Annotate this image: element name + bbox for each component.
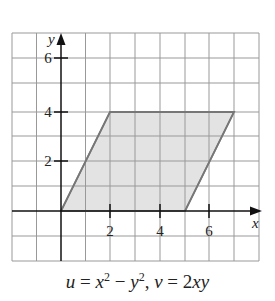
grid <box>12 33 259 261</box>
y-tick-2: 2 <box>44 153 52 169</box>
coordinate-plot: 2 4 6 2 4 6 x y <box>0 0 275 301</box>
y-axis-arrow-icon <box>57 33 66 45</box>
y-tick-6: 6 <box>44 50 52 66</box>
x-tick-4: 4 <box>156 223 164 239</box>
caption: u = x2 − y2, v = 2xy <box>0 270 275 293</box>
y-tick-4: 4 <box>44 104 52 120</box>
x-tick-6: 6 <box>205 223 213 239</box>
x-axis-label: x <box>251 215 259 231</box>
y-axis-label: y <box>46 31 55 47</box>
x-tick-2: 2 <box>106 223 114 239</box>
